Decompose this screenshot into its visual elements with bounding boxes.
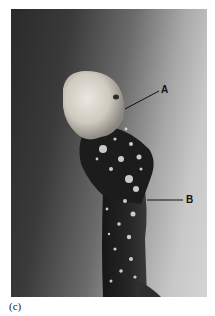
specimen-photograph: A B bbox=[11, 9, 207, 297]
label-a-leader-line bbox=[125, 91, 159, 109]
figure-caption: (c) bbox=[9, 300, 21, 312]
specimen-illustration bbox=[11, 9, 207, 297]
label-b: B bbox=[186, 195, 193, 205]
specimen-tip bbox=[63, 71, 124, 139]
label-a: A bbox=[161, 85, 168, 95]
